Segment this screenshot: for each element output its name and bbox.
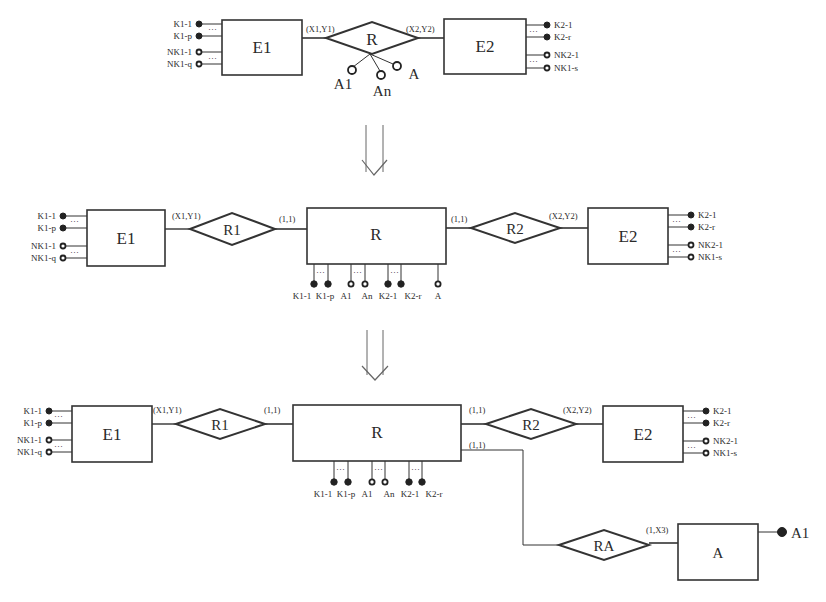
attribute-icon bbox=[348, 281, 353, 286]
nonkey-attribute-icon bbox=[689, 255, 694, 260]
nonkey-attribute-icon bbox=[47, 438, 52, 443]
cardinality-label: (X1,Y1) bbox=[153, 405, 182, 415]
attribute-icon bbox=[377, 71, 385, 79]
attr-label: K2-1 bbox=[698, 210, 717, 220]
relationship-label: R2 bbox=[506, 221, 524, 237]
attribute-icon bbox=[382, 479, 387, 484]
entity-label: A bbox=[713, 545, 724, 561]
attr-label: K1-1 bbox=[24, 406, 43, 416]
key-attribute-icon bbox=[325, 281, 331, 287]
attr-label: NK2-1 bbox=[698, 240, 723, 250]
svg-text:···: ··· bbox=[411, 464, 420, 474]
relationship-label: R2 bbox=[522, 417, 540, 433]
nonkey-attribute-icon bbox=[197, 62, 202, 67]
attr-label: K1-p bbox=[316, 291, 335, 301]
key-attribute-icon bbox=[406, 479, 412, 485]
attr-label: NK2-1 bbox=[713, 436, 738, 446]
entity-label: E2 bbox=[634, 425, 653, 444]
attr-label: K2-r bbox=[426, 489, 443, 499]
attr-label: K1-p bbox=[38, 223, 57, 233]
svg-text:···: ··· bbox=[316, 267, 325, 277]
svg-text:···: ··· bbox=[529, 26, 538, 36]
stage-3: ··· ··· K1-1 K1-p NK1-1 NK1-q E1 (X1,Y1)… bbox=[17, 405, 809, 580]
transform-arrow-icon bbox=[362, 330, 388, 380]
attr-label: A bbox=[435, 291, 442, 301]
attribute-icon bbox=[393, 62, 401, 70]
attr-label: NK1-1 bbox=[17, 435, 42, 445]
attr-label: A1 bbox=[341, 291, 352, 301]
r-attributes: ··· ··· ··· K1-1 K1-p A1 An K2-1 K2-r A bbox=[293, 264, 442, 301]
attr-label: K2-r bbox=[405, 291, 422, 301]
attr-label: A1 bbox=[791, 525, 809, 541]
er-diagram: ··· ··· K1-1 K1-p NK1-1 NK1-q E1 (X1,Y1)… bbox=[0, 0, 826, 602]
attr-label: A1 bbox=[362, 489, 373, 499]
entity-label: R bbox=[371, 423, 383, 442]
svg-text:···: ··· bbox=[390, 267, 399, 277]
nonkey-attribute-icon bbox=[197, 50, 202, 55]
r-attributes: ··· ··· ··· K1-1 K1-p A1 An K2-1 K2-r bbox=[314, 461, 443, 499]
e1-attributes: ··· ··· K1-1 K1-p NK1-1 NK1-q bbox=[17, 406, 72, 457]
cardinality-label: (1,1) bbox=[264, 405, 280, 415]
cardinality-label: (1,1) bbox=[469, 440, 485, 450]
attribute-icon bbox=[435, 281, 440, 286]
svg-text:···: ··· bbox=[208, 24, 217, 34]
attr-label: K2-1 bbox=[401, 489, 420, 499]
attr-label: K1-1 bbox=[314, 489, 333, 499]
key-attribute-icon bbox=[544, 22, 550, 28]
key-attribute-icon bbox=[703, 420, 709, 426]
svg-text:···: ··· bbox=[70, 247, 79, 257]
cardinality-label: (1,1) bbox=[451, 214, 467, 224]
key-attribute-icon bbox=[60, 213, 66, 219]
cardinality-label: (X1,Y1) bbox=[172, 211, 201, 221]
attribute-icon bbox=[362, 281, 367, 286]
relationship-label: RA bbox=[594, 538, 615, 554]
attr-label: NK1-q bbox=[167, 59, 192, 69]
attr-label: K1-p bbox=[174, 31, 193, 41]
nonkey-attribute-icon bbox=[545, 53, 550, 58]
key-attribute-icon bbox=[688, 212, 694, 218]
e1-attributes: ··· ··· K1-1 K1-p NK1-1 NK1-q bbox=[31, 211, 88, 263]
attr-label: NK1-1 bbox=[167, 47, 192, 57]
e2-attributes: ··· ··· K2-1 K2-r NK2-1 NK1-s bbox=[526, 20, 579, 73]
svg-text:···: ··· bbox=[54, 441, 63, 451]
attribute-icon bbox=[369, 479, 374, 484]
attr-label: K2-1 bbox=[379, 291, 398, 301]
attr-label: K2-1 bbox=[713, 406, 732, 416]
cardinality-label: (1,X3) bbox=[646, 525, 669, 535]
cardinality-label: (1,1) bbox=[279, 214, 295, 224]
attr-label: NK1-q bbox=[31, 253, 56, 263]
key-attribute-icon bbox=[46, 408, 52, 414]
attr-label: K1-p bbox=[337, 489, 356, 499]
nonkey-attribute-icon bbox=[689, 243, 694, 248]
relationship-label: R bbox=[366, 30, 378, 49]
nonkey-attribute-icon bbox=[704, 439, 709, 444]
stage-2: ··· ··· K1-1 K1-p NK1-1 NK1-q E1 (X1,Y1)… bbox=[31, 208, 723, 301]
svg-text:···: ··· bbox=[54, 411, 63, 421]
attr-label: K2-r bbox=[713, 418, 730, 428]
attr-label: K1-1 bbox=[293, 291, 312, 301]
attr-label: K1-p bbox=[24, 418, 43, 428]
relationship-label: R1 bbox=[211, 417, 229, 433]
relationship-label: R1 bbox=[223, 222, 241, 238]
attr-label: NK1-s bbox=[698, 252, 722, 262]
entity-label: E2 bbox=[476, 37, 495, 56]
transform-arrow-icon bbox=[362, 125, 387, 175]
key-attribute-icon bbox=[46, 420, 52, 426]
e2-attributes: ··· ··· K2-1 K2-r NK2-1 NK1-s bbox=[683, 406, 738, 458]
nonkey-attribute-icon bbox=[61, 244, 66, 249]
key-attribute-icon bbox=[385, 281, 391, 287]
cardinality-label: (1,1) bbox=[469, 405, 485, 415]
svg-text:···: ··· bbox=[529, 56, 538, 66]
attr-label: K1-1 bbox=[174, 19, 193, 29]
key-attribute-icon bbox=[778, 528, 787, 537]
attr-label: K2-r bbox=[554, 32, 571, 42]
nonkey-attribute-icon bbox=[61, 256, 66, 261]
entity-label: E1 bbox=[253, 38, 272, 57]
key-attribute-icon bbox=[703, 408, 709, 414]
key-attribute-icon bbox=[345, 479, 351, 485]
attr-label: K1-1 bbox=[38, 211, 57, 221]
key-attribute-icon bbox=[311, 281, 317, 287]
attr-label: NK1-1 bbox=[31, 241, 56, 251]
entity-label: R bbox=[370, 225, 382, 244]
cardinality-label: (X1,Y1) bbox=[306, 24, 335, 34]
